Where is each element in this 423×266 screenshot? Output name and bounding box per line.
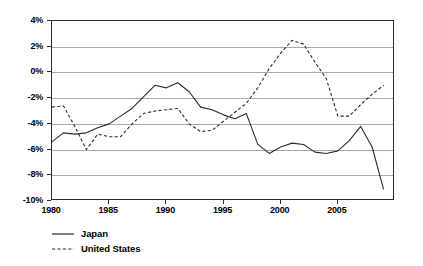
chart-legend: Japan United States [52, 226, 252, 256]
x-tick-label: 2000 [270, 205, 289, 215]
y-tick-label: 0% [30, 66, 43, 76]
series-line-japan [52, 83, 384, 190]
y-tick-label: -6% [28, 144, 43, 154]
x-tick-label: 1985 [99, 205, 118, 215]
chart-container: 4%2%0%-2%-4%-6%-8%-10% 19801985199019952… [0, 0, 423, 266]
y-axis: 4%2%0%-2%-4%-6%-8%-10% [0, 0, 51, 266]
x-tick-mark [165, 200, 166, 204]
x-tick-mark [223, 200, 224, 204]
legend-item-united-states: United States [52, 241, 252, 256]
x-tick-mark [108, 200, 109, 204]
legend-line-dashed-icon [52, 244, 74, 253]
legend-label-japan: Japan [81, 228, 108, 239]
series-line-united-states [52, 40, 384, 149]
x-tick-mark [337, 200, 338, 204]
legend-item-japan: Japan [52, 226, 252, 241]
x-tick-mark [280, 200, 281, 204]
y-tick-label: -2% [28, 92, 43, 102]
legend-line-solid-icon [52, 229, 74, 238]
x-tick-label: 1980 [41, 205, 60, 215]
y-tick-label: -4% [28, 118, 43, 128]
y-tick-label: -8% [28, 169, 43, 179]
x-tick-label: 1995 [213, 205, 232, 215]
plot-area [51, 20, 394, 200]
x-tick-label: 1990 [156, 205, 175, 215]
y-tick-mark [47, 200, 51, 201]
series-layer [52, 21, 395, 201]
y-tick-label: 2% [30, 41, 43, 51]
y-tick-label: 4% [30, 15, 43, 25]
x-tick-label: 2005 [327, 205, 346, 215]
legend-label-united-states: United States [81, 243, 140, 254]
x-axis: 198019851990199520002005 [0, 203, 423, 223]
